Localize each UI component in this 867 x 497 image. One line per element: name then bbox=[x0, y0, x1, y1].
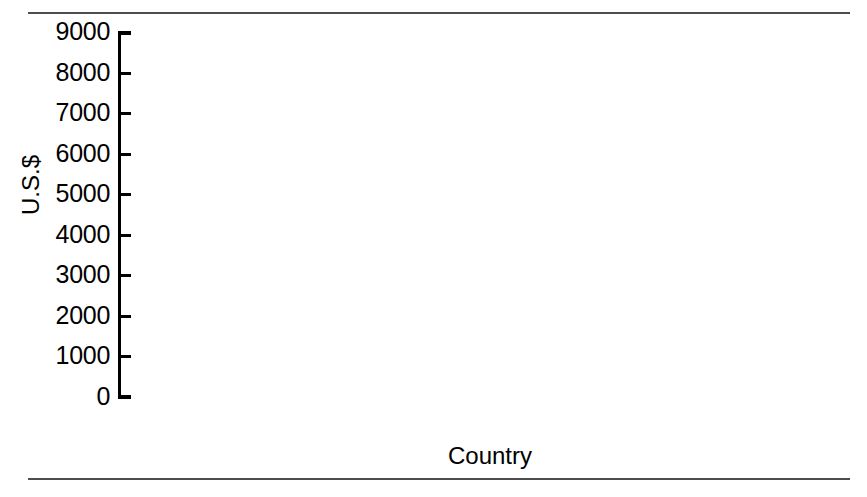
y-axis-tick bbox=[118, 355, 131, 358]
y-axis-tick-label: 8000 bbox=[42, 60, 110, 85]
y-axis-tick bbox=[118, 31, 131, 34]
y-axis-tick-label-wrap: 0 bbox=[38, 384, 110, 409]
y-axis-tick-label-wrap: 9000 bbox=[38, 19, 110, 44]
y-axis-tick-label-wrap: 6000 bbox=[38, 141, 110, 166]
y-axis-tick-label-wrap: 4000 bbox=[38, 222, 110, 247]
y-axis-tick-label-wrap: 8000 bbox=[38, 60, 110, 85]
y-axis-tick-label: 4000 bbox=[42, 222, 110, 247]
y-axis-tick-label-wrap: 5000 bbox=[38, 181, 110, 206]
y-axis-tick-label-wrap: 1000 bbox=[38, 343, 110, 368]
y-axis-tick-label: 0 bbox=[42, 384, 110, 409]
y-axis-tick bbox=[118, 274, 131, 277]
y-axis-tick-label: 5000 bbox=[42, 181, 110, 206]
y-axis-tick bbox=[118, 234, 131, 237]
y-axis-tick-label: 9000 bbox=[42, 19, 110, 44]
y-axis-tick-label: 6000 bbox=[42, 141, 110, 166]
y-axis-tick bbox=[118, 112, 131, 115]
y-axis-tick bbox=[118, 153, 131, 156]
x-axis-title: Country bbox=[390, 443, 590, 469]
y-axis-title: U.S.$ bbox=[19, 130, 43, 240]
y-axis-tick bbox=[118, 72, 131, 75]
y-axis-tick-label: 3000 bbox=[42, 262, 110, 287]
y-axis-tick-label: 7000 bbox=[42, 100, 110, 125]
y-axis-tick-label-wrap: 2000 bbox=[38, 303, 110, 328]
y-axis-tick bbox=[118, 396, 131, 399]
figure: 0100020003000400050006000700080009000 U.… bbox=[0, 0, 867, 497]
y-axis-tick-label: 2000 bbox=[42, 303, 110, 328]
y-axis-line bbox=[118, 32, 121, 398]
y-axis-tick-label-wrap: 7000 bbox=[38, 100, 110, 125]
y-axis-tick-label-wrap: 3000 bbox=[38, 262, 110, 287]
y-axis-tick-label: 1000 bbox=[42, 343, 110, 368]
y-axis-tick bbox=[118, 315, 131, 318]
bar-chart-plot-area: 0100020003000400050006000700080009000 U.… bbox=[0, 0, 867, 497]
y-axis-tick bbox=[118, 193, 131, 196]
